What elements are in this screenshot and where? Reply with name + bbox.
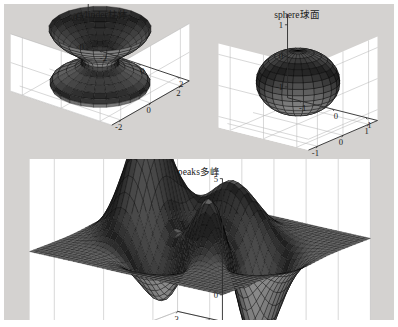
peaks-plot-title: peaks多峰 [4, 168, 394, 178]
svg-text:0: 0 [79, 42, 83, 52]
svg-text:-2: -2 [100, 53, 107, 63]
svg-text:0: 0 [334, 111, 338, 121]
axes-cylinder[interactable]: cylinder柱体 00.51-20220-2 [4, 4, 200, 159]
figure-window: cylinder柱体 00.51-20220-2 sphere球面 -101-1… [0, 0, 398, 327]
svg-text:-1: -1 [299, 103, 306, 113]
peaks-surface-plot: -50520-2-3-2-10123 [4, 159, 394, 320]
svg-text:1: 1 [364, 126, 368, 136]
figure-canvas: cylinder柱体 00.51-20220-2 sphere球面 -101-1… [4, 4, 394, 320]
svg-text:-2: -2 [115, 122, 122, 132]
svg-text:2: 2 [176, 88, 180, 98]
cylinder-surface-plot: 00.51-20220-2 [4, 4, 200, 159]
svg-text:0: 0 [214, 290, 218, 300]
sphere-surface-plot: -101-10110-1 [200, 4, 394, 159]
axes-peaks[interactable]: peaks多峰 -50520-2-3-2-10123 [4, 159, 394, 320]
cylinder-plot-title: cylinder柱体 [4, 11, 200, 21]
svg-text:1: 1 [279, 20, 283, 30]
svg-text:0: 0 [279, 51, 283, 61]
svg-text:0: 0 [339, 137, 343, 147]
svg-text:-1: -1 [312, 148, 319, 158]
svg-text:0: 0 [140, 66, 144, 76]
svg-text:-1: -1 [276, 82, 283, 92]
svg-text:0: 0 [146, 105, 150, 115]
sphere-plot-title: sphere球面 [200, 11, 394, 21]
svg-text:3: 3 [174, 314, 178, 320]
axes-sphere[interactable]: sphere球面 -101-10110-1 [200, 4, 394, 159]
